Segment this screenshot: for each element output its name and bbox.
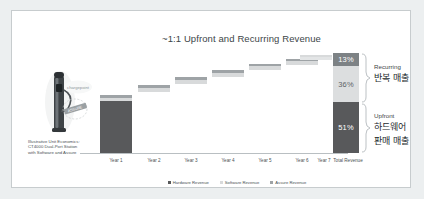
xaxis-label-year-4: Year 4 xyxy=(212,158,244,163)
total-segment-hardware: 51% xyxy=(333,102,359,153)
legend-label-software: Software Revenue xyxy=(225,180,259,185)
bar-year-2 xyxy=(138,85,170,92)
legend-swatch-assure xyxy=(270,181,273,184)
recurring-brace xyxy=(361,53,371,103)
bar-segment-hardware xyxy=(100,101,132,153)
bar-year-4 xyxy=(212,70,244,77)
axis-baseline xyxy=(80,153,348,154)
bar-year-7 xyxy=(300,55,332,60)
bar-year-5 xyxy=(249,64,281,70)
xaxis-label-total-revenue: Total Revenue xyxy=(330,158,366,163)
upfront-annotation: Upfront 하드웨어 판매 매출 xyxy=(374,112,409,147)
recurring-label-kr: 반복 매출 xyxy=(374,71,409,84)
xaxis-label-year-1: Year 1 xyxy=(100,158,132,163)
total-segment-label-assure: 13% xyxy=(338,55,354,64)
total-segment-software: 36% xyxy=(333,66,359,102)
brand-badge: chargepoint xyxy=(64,81,92,94)
bar-segment-software xyxy=(138,88,170,92)
upfront-label-en: Upfront xyxy=(374,112,409,119)
upfront-label-kr2: 판매 매출 xyxy=(374,134,409,147)
legend-label-assure: Assure Revenue xyxy=(275,180,306,185)
total-segment-assure: 13% xyxy=(333,53,359,66)
waterfall-chart: chargepoint ASSURE Illustrative Unit Eco… xyxy=(12,11,412,189)
legend-item-software: Software Revenue xyxy=(220,180,259,185)
chart-legend: Hardware Revenue Software Revenue Assure… xyxy=(132,177,342,187)
slide-card: ~1:1 Upfront and Recurring Revenue xyxy=(11,10,411,188)
svg-text:chargepoint: chargepoint xyxy=(67,85,90,90)
recurring-annotation: Recurring 반복 매출 xyxy=(374,63,409,84)
bar-year-3 xyxy=(175,77,207,84)
legend-label-hardware: Hardware Revenue xyxy=(173,180,209,185)
total-segment-label-hardware: 51% xyxy=(338,123,354,132)
upfront-label-kr: 하드웨어 xyxy=(374,120,409,133)
bar-segment-software xyxy=(286,61,318,65)
bar-year-1 xyxy=(100,95,132,153)
product-photo: chargepoint ASSURE xyxy=(42,68,98,138)
bar-segment-assure xyxy=(300,57,332,60)
xaxis-label-year-3: Year 3 xyxy=(175,158,207,163)
bar-total-revenue: 13% 36% 51% xyxy=(333,53,359,153)
xaxis-label-year-2: Year 2 xyxy=(138,158,170,163)
upfront-brace xyxy=(361,103,371,153)
legend-item-hardware: Hardware Revenue xyxy=(168,180,209,185)
bar-segment-software xyxy=(175,80,207,84)
legend-swatch-hardware xyxy=(168,181,171,184)
recurring-label-en: Recurring xyxy=(374,63,409,70)
xaxis-label-year-5: Year 5 xyxy=(249,158,281,163)
total-segment-label-software: 36% xyxy=(338,80,354,89)
legend-swatch-software xyxy=(220,181,223,184)
bar-segment-software xyxy=(212,73,244,78)
legend-item-assure: Assure Revenue xyxy=(270,180,306,185)
bar-segment-software xyxy=(249,66,281,70)
